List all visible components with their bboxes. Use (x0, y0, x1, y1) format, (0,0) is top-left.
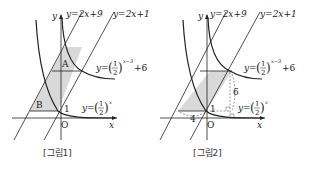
x-axis-label-2: x (257, 120, 262, 130)
svg-text:): ) (260, 101, 265, 115)
svg-text:x: x (109, 99, 112, 105)
line-label-2x1-2: y=2x+1 (259, 9, 297, 19)
svg-text:1: 1 (261, 60, 265, 68)
y-intercept-label-2: 1 (210, 104, 216, 114)
svg-text:): ) (266, 61, 271, 75)
upper-curve-formula-2: y= ( 1 2 ) x−3 +6 (243, 58, 296, 77)
svg-text:2: 2 (261, 69, 265, 77)
x-axis-label-1: x (109, 120, 114, 130)
svg-text:y=: y= (243, 63, 257, 73)
svg-text:(: ( (250, 101, 255, 115)
svg-text:(: ( (108, 61, 113, 75)
svg-text:y=: y= (95, 63, 109, 73)
svg-text:2: 2 (255, 109, 259, 117)
line-2x-plus-1-2 (190, 12, 260, 140)
svg-text:): ) (104, 101, 109, 115)
line-label-2x9-1: y=2x+9 (65, 9, 103, 19)
lower-curve-formula-2: y= ( 1 2 ) x (237, 99, 268, 117)
svg-text:): ) (118, 61, 123, 75)
region-label-B: B (36, 100, 43, 110)
line-2x-plus-9-1 (14, 12, 82, 140)
upper-curve-formula-1: y= ( 1 2 ) x−3 +6 (95, 58, 148, 77)
svg-text:1: 1 (113, 60, 117, 68)
line-label-2x1-1: y=2x+1 (112, 9, 150, 19)
svg-text:x: x (265, 99, 268, 105)
svg-text:y=: y= (237, 103, 251, 113)
width-label-4: 4 (190, 114, 196, 124)
svg-text:1: 1 (99, 100, 103, 108)
origin-label-1: O (61, 120, 68, 130)
svg-text:(: ( (256, 61, 261, 75)
caption-1: [그림1] (43, 147, 72, 158)
svg-text:+6: +6 (134, 63, 148, 73)
region-label-A: A (61, 59, 69, 69)
line-label-2x9-2: y=2x+9 (209, 9, 247, 19)
diagram-canvas: y y=2x+9 y=2x+1 A B 1 O x y= ( 1 2 ) x−3… (0, 0, 314, 169)
caption-2: [그림2] (193, 147, 222, 158)
svg-text:y=: y= (81, 103, 95, 113)
svg-text:x−3: x−3 (123, 58, 133, 64)
shaded-region-2 (178, 71, 232, 111)
y-axis-label-2: y (197, 11, 204, 21)
svg-text:(: ( (94, 101, 99, 115)
y-axis-label-1: y (51, 11, 58, 21)
y-intercept-label-1: 1 (64, 104, 70, 114)
height-label-6: 6 (233, 87, 239, 97)
svg-text:2: 2 (99, 109, 103, 117)
svg-text:1: 1 (255, 100, 259, 108)
figure-2: y y=2x+9 y=2x+1 1 4 6 O x y= ( 1 2 ) x−3… (160, 9, 297, 158)
figure-1: y y=2x+9 y=2x+1 A B 1 O x y= ( 1 2 ) x−3… (12, 9, 150, 158)
svg-text:x−3: x−3 (271, 58, 281, 64)
lower-curve-formula-1: y= ( 1 2 ) x (81, 99, 112, 117)
svg-text:2: 2 (113, 69, 117, 77)
svg-text:+6: +6 (282, 63, 296, 73)
origin-label-2: O (207, 120, 214, 130)
